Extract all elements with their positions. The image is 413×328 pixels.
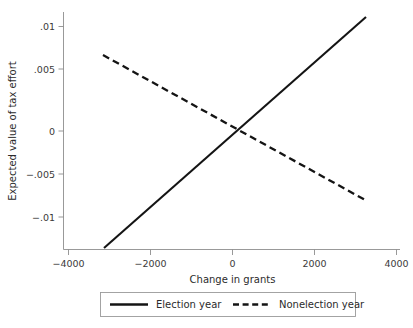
x-tick-label-4: 4000	[384, 258, 408, 269]
y-tick-label-1: .005	[34, 64, 55, 75]
y-tick-label-4: −.01	[32, 212, 55, 223]
x-tick-label-1: −2000	[134, 258, 166, 269]
y-tick-label-3: −.005	[26, 169, 55, 180]
series-line-nonelection-year	[103, 55, 367, 201]
x-tick-label-3: 2000	[302, 258, 326, 269]
x-tick-label-2: 0	[229, 258, 235, 269]
y-tick-label-0: .01	[40, 21, 55, 32]
legend-label-election-year: Election year	[156, 299, 222, 310]
chart-legend: Election year Nonelection year	[101, 293, 366, 317]
plot-frame	[64, 12, 401, 250]
y-tick-label-2: 0	[49, 126, 55, 137]
x-tick-label-0: −4000	[52, 258, 84, 269]
series-line-election-year	[104, 17, 366, 248]
x-axis-ticks	[69, 250, 397, 256]
axis-frame-lines	[64, 12, 401, 250]
data-series-group	[103, 17, 367, 248]
x-axis-title: Change in grants	[190, 274, 276, 285]
y-axis-tick-labels: .01 .005 0 −.005 −.01	[26, 21, 55, 223]
y-axis-title: Expected value of tax effort	[7, 61, 18, 201]
legend-label-nonelection-year: Nonelection year	[279, 299, 365, 310]
x-axis-tick-labels: −4000 −2000 0 2000 4000	[52, 258, 408, 269]
chart-figure: .01 .005 0 −.005 −.01 −4000 −2000 0 2000…	[0, 0, 413, 328]
chart-canvas: .01 .005 0 −.005 −.01 −4000 −2000 0 2000…	[0, 0, 413, 328]
y-axis-ticks	[59, 27, 64, 218]
